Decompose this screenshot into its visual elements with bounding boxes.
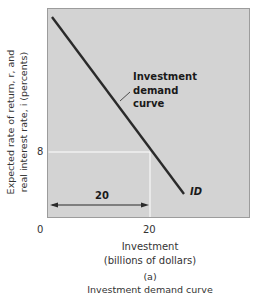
curve-label: Investment demand curve	[133, 70, 197, 111]
bracket-label: 20	[95, 190, 109, 201]
caption-title: Investment demand curve	[60, 283, 240, 296]
arrow-left-head-icon	[50, 203, 58, 208]
x-axis-label-line2: (billions of dollars)	[80, 254, 220, 268]
id-label: ID	[190, 186, 202, 197]
curve-label-line2: demand	[133, 84, 197, 98]
curve-label-line3: curve	[133, 97, 197, 111]
panel-label: (a)	[60, 270, 240, 283]
figure-caption: (a) Investment demand curve	[60, 270, 240, 296]
arrow-right-head-icon	[141, 203, 149, 208]
x-axis-label: Investment (billions of dollars)	[80, 240, 220, 268]
curve-label-line1: Investment	[133, 70, 197, 84]
x-tick-20: 20	[143, 224, 156, 235]
x-axis-label-line1: Investment	[80, 240, 220, 254]
curve-label-leader	[120, 92, 130, 101]
